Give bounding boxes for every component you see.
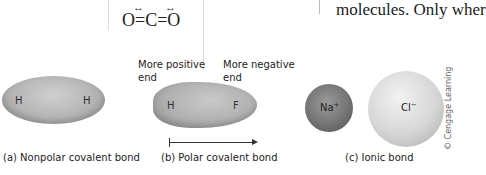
chloride-ion-label: Cl− <box>401 101 417 113</box>
column-divider-right <box>319 0 320 14</box>
atom-f: F <box>233 100 239 111</box>
column-divider-left <box>108 0 109 30</box>
dipole-arrow-head-icon <box>252 139 258 145</box>
label-more-positive-end: More positive end <box>138 58 205 84</box>
atom-h-left: H <box>15 95 23 106</box>
body-text-fragment: molecules. Only wher <box>336 0 486 20</box>
co2-formula: O=C=O <box>122 10 180 31</box>
sodium-ion-label: Na+ <box>320 101 339 113</box>
caption-polar: (b) Polar covalent bond <box>161 152 278 163</box>
atom-h: H <box>167 100 175 111</box>
label-more-negative-end: More negative end <box>223 58 295 84</box>
caption-nonpolar: (a) Nonpolar covalent bond <box>3 152 140 163</box>
dipole-arrow-line-icon <box>169 142 255 143</box>
copyright-credit: © Cengage Learning <box>444 67 453 150</box>
atom-h-right: H <box>83 95 91 106</box>
caption-ionic: (c) Ionic bond <box>345 152 414 163</box>
